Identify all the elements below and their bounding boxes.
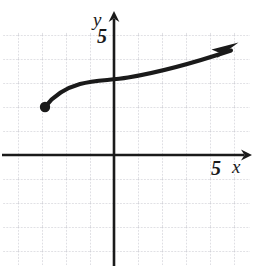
graph-figure: y 5 5 x [0,0,257,268]
coordinate-plane-svg [0,0,257,268]
curve-endpoint-dot [40,102,50,112]
grid [3,32,250,265]
x-axis-label: x [232,157,240,176]
x-axis-tick-label-5: 5 [211,158,221,178]
y-axis-tick-label-5: 5 [97,26,107,46]
